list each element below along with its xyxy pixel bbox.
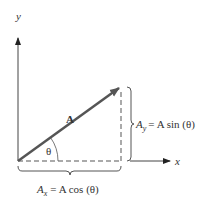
vector-component-diagram: y x A θ Ay= A sin (θ) Ax= A cos (θ)	[0, 0, 208, 207]
y-component-brace	[127, 87, 134, 161]
x-axis-label: x	[174, 155, 180, 167]
angle-arc	[51, 138, 59, 162]
x-component-label: Ax= A cos (θ)	[36, 183, 99, 198]
y-axis-label: y	[15, 10, 21, 22]
y-component-label: Ay= A sin (θ)	[135, 118, 195, 133]
x-component-brace	[18, 166, 121, 175]
angle-label: θ	[46, 145, 51, 157]
vector-a-label: A	[66, 113, 74, 125]
